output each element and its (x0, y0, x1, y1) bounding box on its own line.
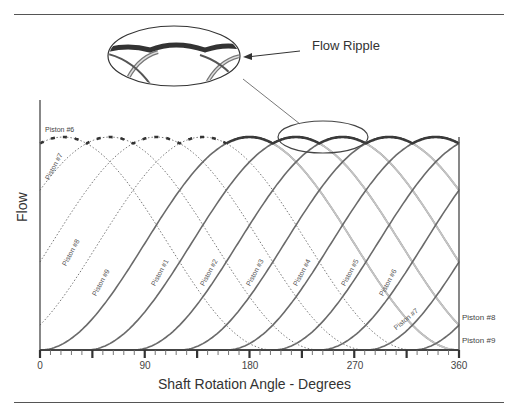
curve-piston-9-prev-cycle- (40, 137, 412, 350)
arrow-head-icon (243, 53, 252, 60)
curve-piston-6 (273, 143, 459, 350)
x-tick-label-270: 270 (347, 360, 364, 371)
callout-label-flow-ripple: Flow Ripple (312, 38, 380, 53)
curve-piston-9 (412, 325, 459, 350)
callout-arrow-line (247, 51, 300, 57)
end-label-piston-8: Piston #8 (462, 313, 495, 322)
curve-descending (389, 137, 459, 190)
curve-piston-7-prev-cycle- (40, 137, 319, 350)
x-tick-label-90: 90 (139, 360, 150, 371)
flow-ripple-chart (0, 0, 517, 415)
curve-descending (296, 137, 459, 325)
label-piston-6-top: Piston #6 (45, 126, 74, 133)
envelope-ripple (226, 137, 459, 143)
end-label-piston-9: Piston #9 (462, 336, 495, 345)
magnified-ripple-ellipse (108, 26, 240, 86)
x-tick-label-180: 180 (242, 360, 259, 371)
curve-piston-4 (180, 137, 459, 350)
x-tick-label-0: 0 (37, 360, 43, 371)
envelope-dotted (40, 137, 226, 143)
curve-descending (250, 137, 460, 350)
curve-piston-8-prev-cycle- (40, 137, 366, 350)
x-tick-label-360: 360 (451, 360, 468, 371)
x-axis-label: Shaft Rotation Angle - Degrees (158, 376, 351, 392)
callout-connector (243, 79, 300, 124)
y-axis-label: Flow (14, 192, 30, 222)
